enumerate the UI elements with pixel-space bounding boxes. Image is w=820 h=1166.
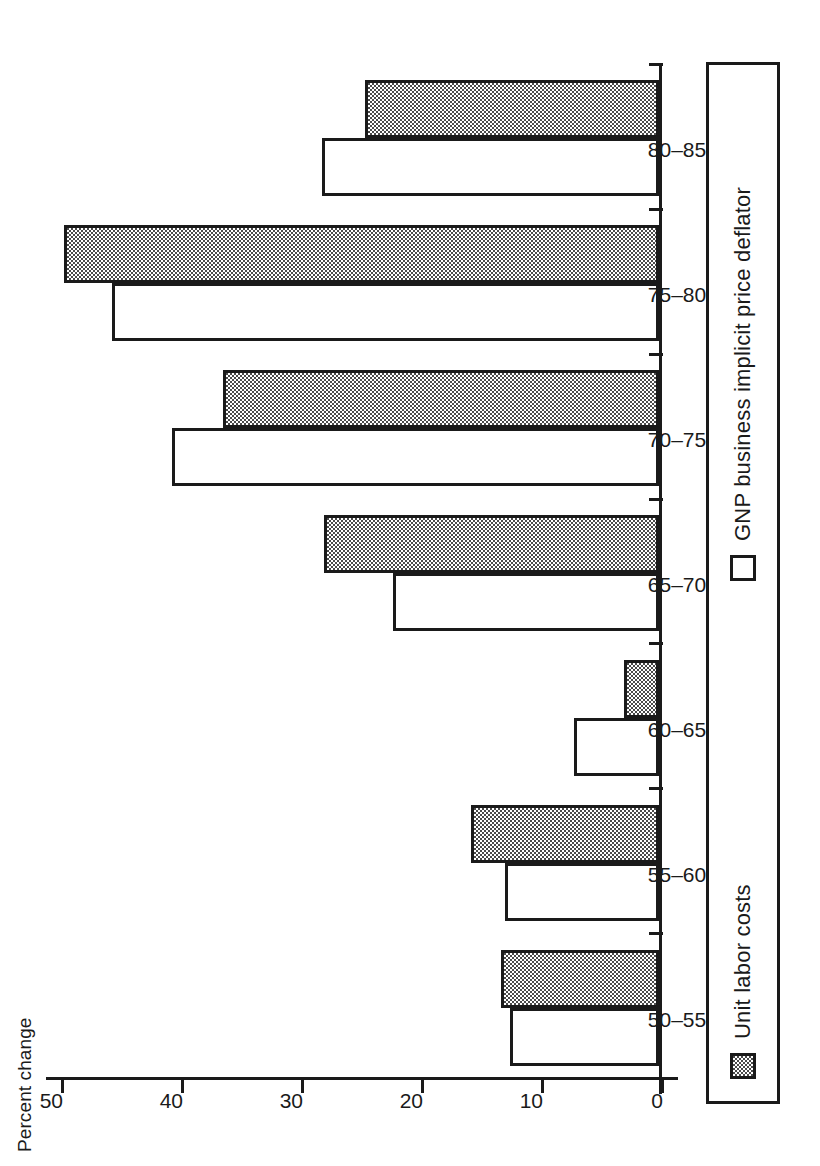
bar-gnp-deflator (172, 428, 659, 486)
category-label: 80–85 (648, 138, 706, 162)
plot-area: 50403020100 50–5555–6060–6565–7070–7575–… (62, 66, 662, 1080)
value-tick: 0 (661, 1080, 664, 1093)
white-square-icon (730, 555, 756, 581)
legend-label: Unit labor costs (730, 884, 756, 1039)
value-tick: 50 (61, 1080, 64, 1093)
bar-unit-labor-costs (324, 515, 659, 573)
bar-unit-labor-costs (64, 225, 659, 283)
chart-legend: Unit labor costs GNP business implicit p… (706, 62, 780, 1104)
bar-group: 80–85 (59, 66, 659, 211)
legend-item-unit-labor-costs: Unit labor costs (730, 884, 756, 1079)
bar-group: 70–75 (59, 356, 659, 501)
category-label: 65–70 (648, 573, 706, 597)
axis-caption: Percent change (14, 1018, 36, 1153)
bar-gnp-deflator (112, 283, 659, 341)
bar-unit-labor-costs (501, 950, 659, 1008)
legend-item-gnp-deflator: GNP business implicit price deflator (730, 187, 756, 581)
value-tick-label: 20 (399, 1089, 422, 1113)
bar-unit-labor-costs (471, 805, 659, 863)
chart-canvas: Percent change 50403020100 50–5555–6060–… (0, 0, 820, 1166)
value-tick-label: 0 (651, 1089, 663, 1113)
value-tick-label: 30 (279, 1089, 302, 1113)
bar-gnp-deflator (322, 138, 659, 196)
bar-unit-labor-costs (365, 81, 659, 139)
bar-group: 75–80 (59, 211, 659, 356)
category-label: 70–75 (648, 428, 706, 452)
value-tick-label: 50 (39, 1089, 62, 1113)
shaded-square-icon (730, 1053, 756, 1079)
category-label: 75–80 (648, 283, 706, 307)
category-label: 55–60 (648, 863, 706, 887)
category-label: 60–65 (648, 718, 706, 742)
category-label: 50–55 (648, 1008, 706, 1032)
value-tick-label: 40 (159, 1089, 182, 1113)
value-tick: 30 (301, 1080, 304, 1093)
legend-label: GNP business implicit price deflator (730, 187, 756, 541)
value-tick: 40 (181, 1080, 184, 1093)
bar-group: 55–60 (59, 790, 659, 935)
bar-gnp-deflator (510, 1008, 659, 1066)
bar-group: 50–55 (59, 935, 659, 1080)
bar-group: 65–70 (59, 501, 659, 646)
bar-unit-labor-costs (223, 370, 659, 428)
bar-gnp-deflator (393, 573, 659, 631)
bar-unit-labor-costs (624, 660, 659, 718)
value-tick: 20 (421, 1080, 424, 1093)
value-tick: 10 (541, 1080, 544, 1093)
bar-gnp-deflator (505, 863, 659, 921)
bar-group: 60–65 (59, 645, 659, 790)
value-tick-label: 10 (519, 1089, 542, 1113)
bar-gnp-deflator (574, 718, 659, 776)
